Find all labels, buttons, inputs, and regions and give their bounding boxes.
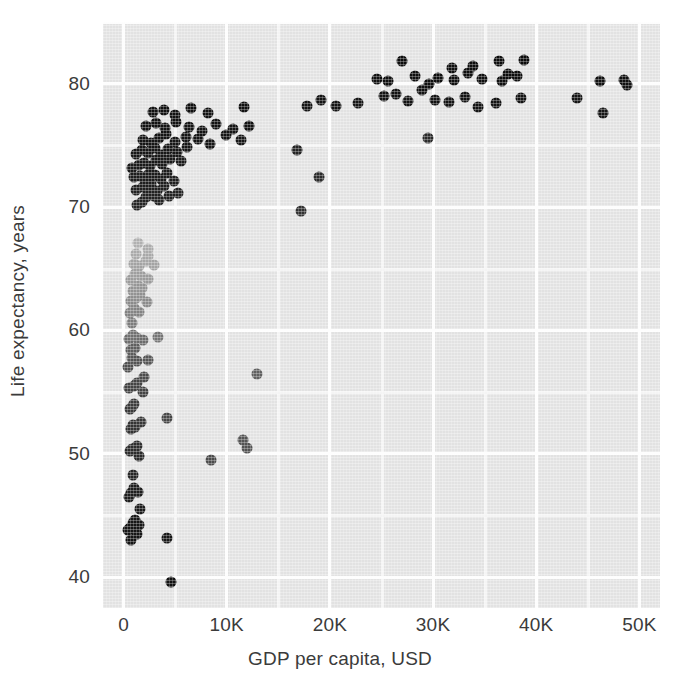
x-tick-label: 10K [210,614,244,636]
scatter-point [143,273,154,284]
scatter-point [378,91,389,102]
scatter-point [126,318,137,329]
scatter-point [490,98,501,109]
y-tick-label: 60 [40,319,90,341]
scatter-point [176,156,187,167]
x-tick-label: 50K [622,614,656,636]
scatter-point [422,132,433,143]
horizontal-gridline [103,22,660,24]
vertical-gridline-minor [587,22,590,608]
vertical-gridline-minor [277,22,280,608]
scatter-point [132,487,143,498]
scatter-point [161,532,172,543]
plot-area [103,22,660,608]
scatter-point [134,520,145,531]
scatter-point [473,102,484,113]
scatter-point [331,100,342,111]
scatter-point [443,97,454,108]
scatter-point [244,120,255,131]
scatter-point [173,188,184,199]
scatter-point [433,72,444,83]
scatter-point [382,76,393,87]
scatter-point [143,243,154,254]
y-tick-label: 70 [40,196,90,218]
scatter-point [211,119,222,130]
scatter-point [251,368,262,379]
scatter-point [302,100,313,111]
x-axis-title: GDP per capita, USD [0,648,680,670]
scatter-point [518,55,529,66]
scatter-point [205,139,216,150]
scatter-point [494,56,505,67]
scatter-point [132,356,143,367]
horizontal-gridline [103,206,660,209]
horizontal-gridline-minor [103,391,660,394]
vertical-gridline [432,22,435,608]
vertical-gridline [535,22,538,608]
vertical-gridline-minor [484,22,487,608]
scatter-point [135,504,146,515]
horizontal-gridline-minor [103,514,660,517]
scatter-point [128,399,139,410]
scatter-point [242,442,253,453]
y-tick-label: 40 [40,566,90,588]
scatter-point [468,61,479,72]
scatter-point [296,205,307,216]
scatter-point [185,103,196,114]
scatter-point [147,107,158,118]
scatter-point [598,108,609,119]
y-tick-label: 80 [40,73,90,95]
y-axis-title: Life expectancy, years [7,61,29,541]
scatter-point [448,74,459,85]
scatter-point [137,283,148,294]
scatter-point [476,73,487,84]
scatter-point [291,145,302,156]
horizontal-gridline [103,576,660,579]
scatter-point [197,125,208,136]
scatter-point [430,94,441,105]
scatter-point [134,306,145,317]
scatter-point [131,441,142,452]
scatter-point [143,355,154,366]
scatter-point [170,136,181,147]
scatter-point [133,237,144,248]
scatter-point [313,172,324,183]
x-tick-label: 0 [118,614,129,636]
scatter-point [236,135,247,146]
x-tick-label: 30K [416,614,450,636]
horizontal-gridline [103,452,660,455]
scatter-point [390,88,401,99]
scatter-point [159,123,170,134]
scatter-point [138,335,149,346]
horizontal-gridline [103,329,660,332]
x-tick-label: 40K [519,614,553,636]
scatter-point [397,56,408,67]
scatter-point [127,469,138,480]
scatter-point [595,76,606,87]
scatter-point [446,62,457,73]
scatter-point [315,94,326,105]
scatter-point [352,98,363,109]
vertical-gridline [225,22,228,608]
scatter-point [136,416,147,427]
scatter-point [239,102,250,113]
vertical-gridline [328,22,331,608]
scatter-point [403,95,414,106]
scatter-point [183,121,194,132]
scatter-point [503,68,514,79]
scatter-point [131,248,142,259]
chart-figure: 4050607080 010K20K30K40K50K GDP per capi… [0,0,680,690]
scatter-point [515,93,526,104]
scatter-point [161,413,172,424]
scatter-point [152,331,163,342]
scatter-point [181,141,192,152]
scatter-point [170,109,181,120]
vertical-gridline [638,22,641,608]
x-tick-label: 20K [313,614,347,636]
scatter-point [158,104,169,115]
scatter-point [142,297,153,308]
scatter-point [572,93,583,104]
scatter-point [227,124,238,135]
scatter-point [206,454,217,465]
scatter-point [180,131,191,142]
